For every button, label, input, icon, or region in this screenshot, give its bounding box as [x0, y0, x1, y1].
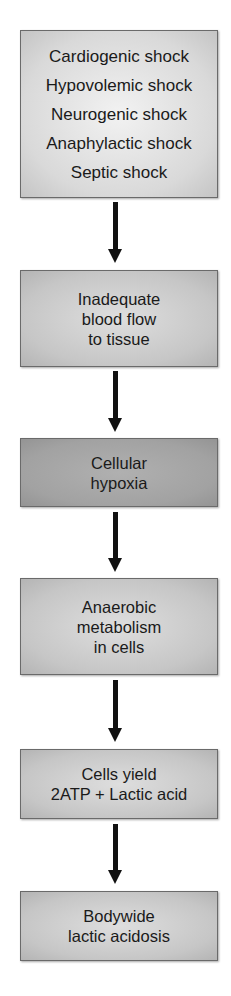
arrow-down-icon	[113, 512, 118, 562]
node-text: blood flow	[82, 309, 156, 329]
node-inadequate-blood-flow: Inadequate blood flow to tissue	[20, 270, 218, 367]
node-text: Bodywide	[83, 906, 155, 926]
node-text: Hypovolemic shock	[46, 71, 192, 100]
node-text: Neurogenic shock	[51, 100, 187, 129]
node-text: 2ATP + Lactic acid	[51, 784, 188, 804]
node-text: Cellular	[91, 453, 147, 473]
node-text: metabolism	[77, 617, 161, 637]
node-text: in cells	[94, 637, 144, 657]
node-text: Inadequate	[78, 289, 161, 309]
node-text: Septic shock	[71, 158, 167, 187]
node-text: to tissue	[88, 329, 149, 349]
node-text: Anaerobic	[82, 597, 156, 617]
node-text: Anaphylactic shock	[46, 129, 192, 158]
arrow-down-icon	[113, 202, 118, 253]
node-shock-types: Cardiogenic shock Hypovolemic shock Neur…	[20, 30, 218, 198]
node-anaerobic-metabolism: Anaerobic metabolism in cells	[20, 578, 218, 675]
arrow-down-icon	[113, 680, 118, 732]
arrow-down-icon	[113, 371, 118, 422]
node-lactic-acidosis: Bodywide lactic acidosis	[20, 891, 218, 961]
node-text: hypoxia	[91, 473, 148, 493]
node-cellular-hypoxia: Cellular hypoxia	[20, 438, 218, 507]
node-cells-yield: Cells yield 2ATP + Lactic acid	[20, 749, 218, 819]
node-text: Cells yield	[81, 764, 156, 784]
arrow-down-icon	[113, 824, 118, 874]
node-text: lactic acidosis	[68, 926, 170, 946]
node-text: Cardiogenic shock	[49, 42, 189, 71]
